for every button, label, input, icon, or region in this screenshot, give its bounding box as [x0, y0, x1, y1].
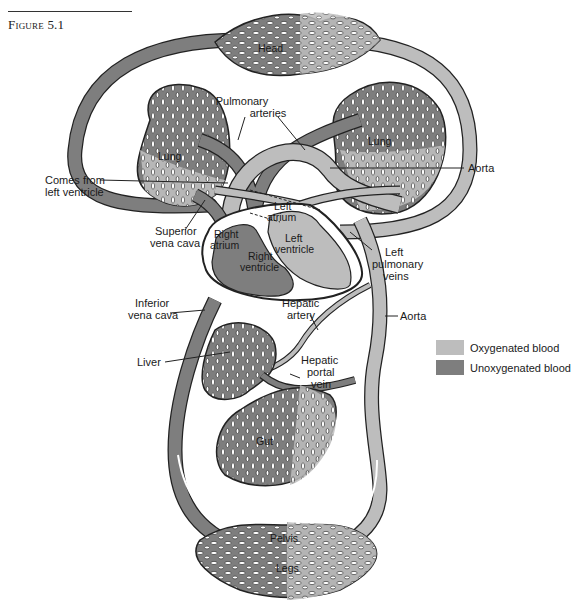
hepatic-portal-label-1: Hepatic	[301, 354, 339, 366]
left-ventricle-label-2: ventricle	[275, 243, 314, 255]
aorta-mid-label: Aorta	[400, 310, 427, 322]
right-lung-label: Lung	[368, 135, 392, 147]
hepatic-portal-label-3: vein	[311, 378, 331, 390]
comes-from-label-1: Comes from	[45, 174, 105, 186]
comes-from-label-2: left ventricle	[45, 186, 104, 198]
pulmonary-arteries-label-1: Pulmonary	[216, 95, 269, 107]
inferior-vena-cava-label-2: vena cava	[128, 309, 179, 321]
hepatic-portal-label-2: portal	[307, 366, 335, 378]
unoxygenated-swatch	[436, 360, 464, 375]
legs-label: Legs	[276, 562, 299, 574]
legend-item-unoxygenated: Unoxygenated blood	[436, 358, 571, 377]
gut-label: Gut	[256, 435, 273, 447]
oxygenated-swatch	[436, 340, 464, 355]
right-atrium-label-2: atrium	[210, 239, 239, 251]
hepatic-artery-label-2: artery	[287, 309, 316, 321]
left-pulmonary-veins-label-3: veins	[383, 270, 409, 282]
aorta-top-label: Aorta	[468, 162, 495, 174]
circulation-diagram: Head Lung Lung Left atrium Left ventricl…	[0, 0, 578, 604]
legend-label-oxygenated: Oxygenated blood	[470, 342, 559, 354]
legend-item-oxygenated: Oxygenated blood	[436, 338, 571, 357]
liver	[202, 323, 276, 400]
hepatic-artery-label-1: Hepatic	[282, 297, 320, 309]
superior-vena-cava-label-1: Superior	[155, 225, 197, 237]
right-ventricle-label-2: ventricle	[240, 261, 279, 273]
inferior-vena-cava-label-1: Inferior	[135, 297, 170, 309]
left-pulmonary-veins-label-1: Left	[385, 246, 403, 258]
superior-vena-cava-label-2: vena cava	[150, 237, 201, 249]
head-label: Head	[258, 42, 283, 54]
left-pulmonary-veins-label-2: pulmonary	[372, 258, 424, 270]
left-atrium-label-2: atrium	[267, 211, 296, 223]
left-lung-label: Lung	[158, 150, 182, 162]
legend: Oxygenated blood Unoxygenated blood	[436, 338, 571, 378]
liver-label: Liver	[137, 356, 161, 368]
pulmonary-arteries-label-2: arteries	[250, 107, 287, 119]
pelvis-label: Pelvis	[270, 532, 298, 544]
legend-label-unoxygenated: Unoxygenated blood	[470, 362, 571, 374]
